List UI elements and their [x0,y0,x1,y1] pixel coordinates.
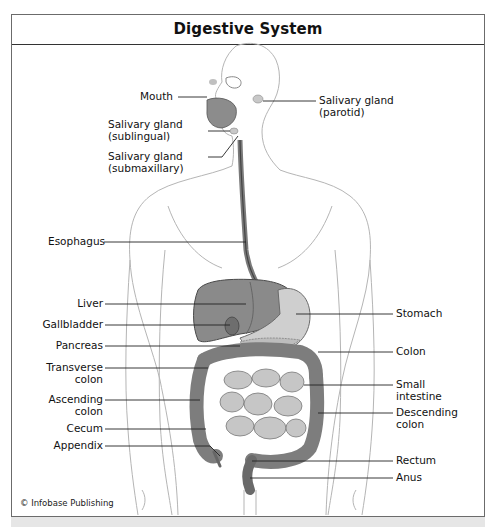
label-liver: Liver [77,298,103,310]
label-anus: Anus [396,472,422,484]
small-intestine-coils [220,369,306,439]
label-small-intestine: Smallintestine [396,379,442,402]
label-descending-colon: Descendingcolon [396,407,458,430]
label-salivary-parotid: Salivary gland(parotid) [319,95,394,118]
label-transverse-colon: Transversecolon [46,362,103,385]
sublingual-gland [230,128,238,134]
label-appendix: Appendix [54,440,103,452]
gallbladder [225,317,239,335]
label-rectum: Rectum [396,455,436,467]
label-stomach: Stomach [396,308,442,320]
label-ascending-colon: Ascendingcolon [49,394,103,417]
label-mouth: Mouth [140,91,173,103]
label-gallbladder: Gallbladder [42,319,103,331]
label-salivary-sublingual: Salivary gland(sublingual) [108,119,183,142]
parotid-gland [253,95,263,103]
label-pancreas: Pancreas [56,340,103,352]
copyright-credit: © Infobase Publishing [20,498,114,508]
oral-cavity [207,77,263,134]
label-salivary-submaxillary: Salivary gland(submaxillary) [108,151,184,174]
label-colon: Colon [396,346,426,358]
label-esophagus: Esophagus [48,236,105,248]
label-cecum: Cecum [67,423,103,435]
